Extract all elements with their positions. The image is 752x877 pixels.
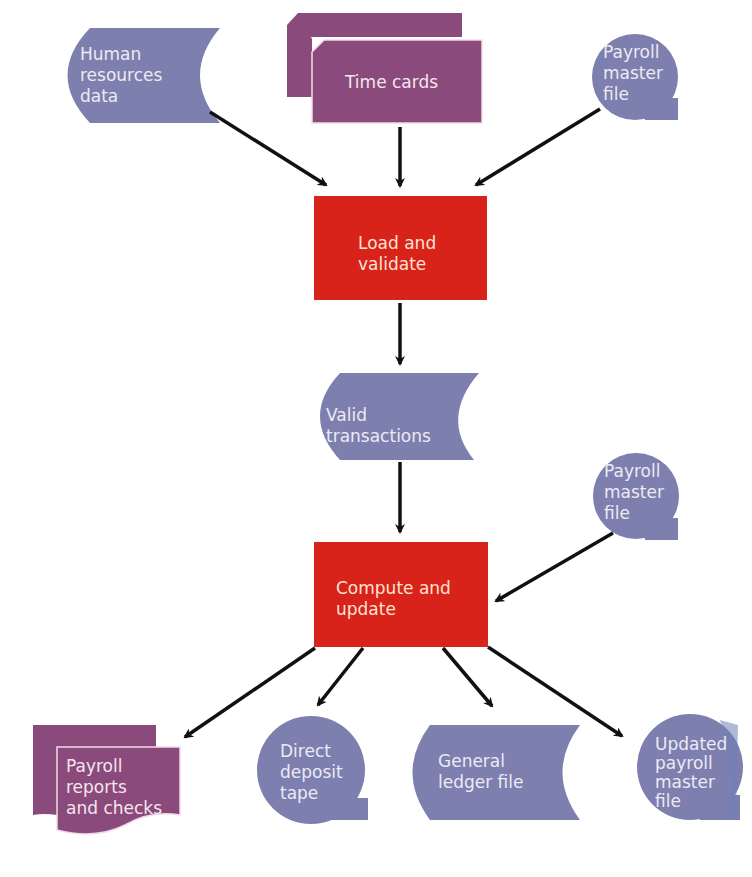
time-cards-node xyxy=(287,13,482,123)
arrow-master-to-load xyxy=(476,109,600,185)
valid-transactions-label: Valid transactions xyxy=(326,405,431,447)
arrow-compute-to-updated xyxy=(488,647,622,736)
time-cards-label: Time cards xyxy=(345,72,438,93)
payroll-reports-label: Payroll reports and checks xyxy=(66,756,162,819)
hr-data-label: Human resources data xyxy=(80,44,162,107)
direct-deposit-label: Direct deposit tape xyxy=(280,741,343,804)
arrow-hr-to-load xyxy=(210,112,326,185)
general-ledger-label: General ledger file xyxy=(438,751,524,793)
load-validate-label: Load and validate xyxy=(358,233,436,275)
updated-master-label: Updated payroll master file xyxy=(655,735,727,811)
arrow-compute-to-ledger xyxy=(443,648,492,706)
arrow-master-to-compute xyxy=(496,533,613,601)
arrow-compute-to-deposit xyxy=(318,648,363,705)
compute-update-label: Compute and update xyxy=(336,578,451,620)
payroll-master-top-label: Payroll master file xyxy=(603,42,663,105)
payroll-master-mid-label: Payroll master file xyxy=(604,461,664,524)
